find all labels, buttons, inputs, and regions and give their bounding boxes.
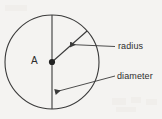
circle-diagram: A radius diameter xyxy=(0,0,162,119)
center-point-dot xyxy=(49,59,55,65)
radius-label: radius xyxy=(118,41,143,51)
radius-leader-line xyxy=(70,45,115,47)
diagram-canvas xyxy=(0,0,162,119)
radius-line xyxy=(52,31,87,62)
diameter-leader-line xyxy=(55,76,115,92)
diameter-label: diameter xyxy=(117,71,153,81)
center-point-label: A xyxy=(31,55,38,66)
